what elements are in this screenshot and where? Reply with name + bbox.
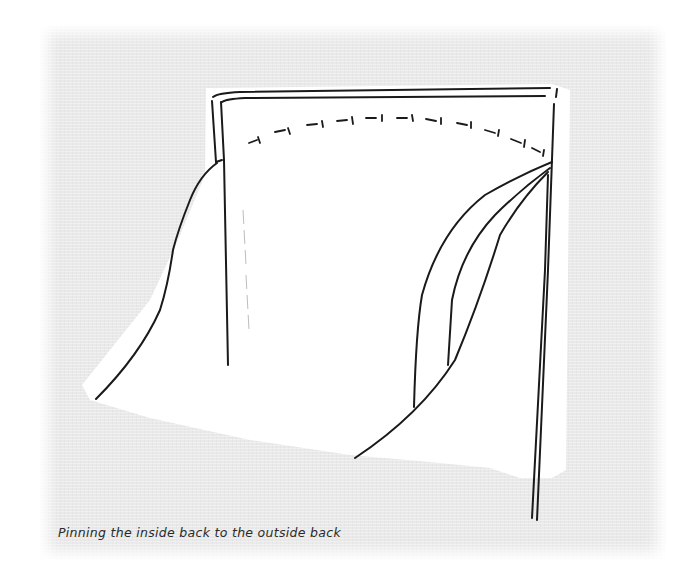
figure-caption: Pinning the inside back to the outside b… <box>58 525 341 540</box>
sewing-illustration <box>0 0 696 584</box>
fabric-sheet <box>82 84 570 478</box>
waistband-right-tick <box>556 89 557 97</box>
